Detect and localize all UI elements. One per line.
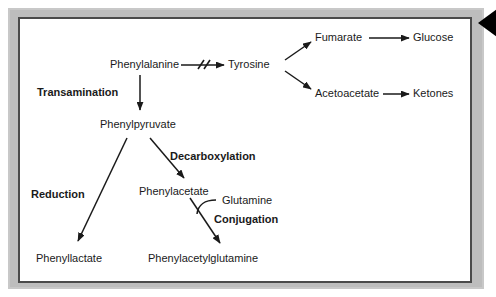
reaction-transamination: Transamination bbox=[37, 86, 118, 99]
edge-phenylpyruvate-phenyllactate bbox=[78, 138, 127, 241]
left-pointing-triangle-icon bbox=[478, 9, 496, 37]
reaction-conjugation: Conjugation bbox=[214, 213, 278, 226]
node-phenylacetate: Phenylacetate bbox=[139, 185, 209, 198]
node-phenylacetylglutamine: Phenylacetylglutamine bbox=[148, 252, 258, 265]
reaction-reduction: Reduction bbox=[31, 188, 85, 201]
figure-root: Phenylalanine Tyrosine Fumarate Glucose … bbox=[0, 0, 496, 297]
node-glutamine: Glutamine bbox=[222, 194, 272, 207]
edge-tyrosine-fumarate bbox=[285, 42, 311, 60]
node-phenylpyruvate: Phenylpyruvate bbox=[100, 118, 176, 131]
edge-tyrosine-acetoacetate bbox=[285, 71, 311, 89]
node-tyrosine: Tyrosine bbox=[228, 58, 270, 71]
node-ketones: Ketones bbox=[413, 87, 453, 100]
node-acetoacetate: Acetoacetate bbox=[315, 87, 379, 100]
node-fumarate: Fumarate bbox=[315, 31, 362, 44]
node-phenylalanine: Phenylalanine bbox=[110, 58, 179, 71]
reaction-decarboxylation: Decarboxylation bbox=[170, 150, 256, 163]
node-phenyllactate: Phenyllactate bbox=[36, 252, 102, 265]
node-glucose: Glucose bbox=[413, 31, 453, 44]
